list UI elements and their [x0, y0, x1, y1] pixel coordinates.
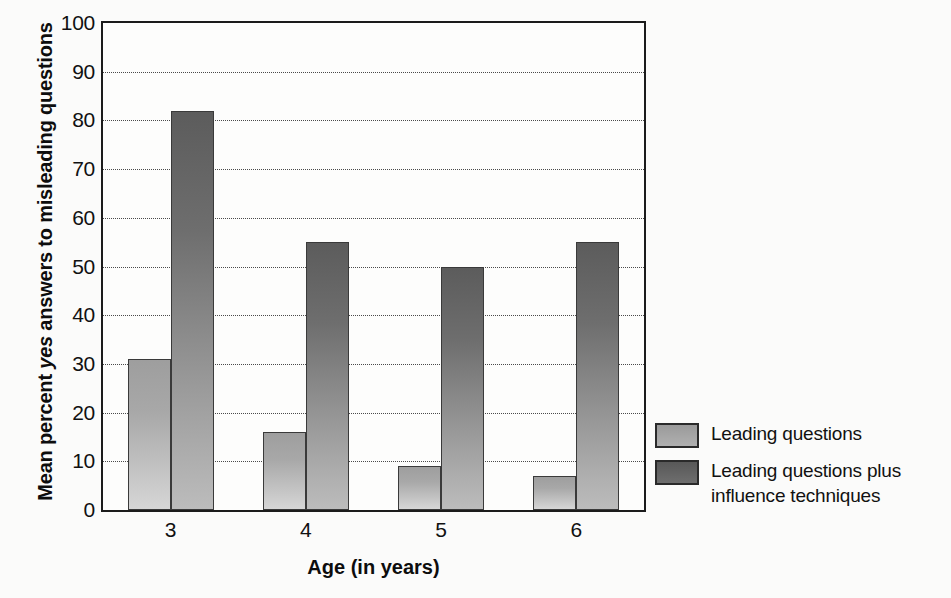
legend-swatch-leading-questions-plus-influence: [655, 460, 699, 485]
bar-3-series1: [128, 359, 171, 510]
y-tick-label-30: 30: [39, 352, 95, 376]
bar-3-series2: [171, 111, 214, 510]
x-tick-label-5: 5: [401, 518, 481, 542]
bar-6-series2: [576, 242, 619, 510]
legend-label-leading-questions-plus-influence: Leading questions plus influence techniq…: [711, 458, 945, 508]
bar-6-series1: [533, 476, 576, 510]
y-tick-label-100: 100: [39, 11, 95, 35]
x-tick-label-3: 3: [131, 518, 211, 542]
y-tick-label-60: 60: [39, 206, 95, 230]
y-tick-label-40: 40: [39, 303, 95, 327]
y-axis-ticks: 0102030405060708090100: [37, 21, 95, 512]
bar-5-series2: [441, 267, 484, 511]
legend-entry: Leading questions: [655, 421, 945, 448]
y-tick-label-70: 70: [39, 157, 95, 181]
y-tick-label-0: 0: [39, 498, 95, 522]
legend: Leading questions Leading questions plus…: [655, 421, 945, 518]
gridline-90: [103, 72, 644, 73]
x-axis-title: Age (in years): [101, 556, 646, 579]
chart-figure: Mean percent yes answers to misleading q…: [0, 0, 951, 598]
x-axis-ticks: 3456: [101, 518, 646, 552]
y-tick-label-90: 90: [39, 60, 95, 84]
x-tick-label-4: 4: [266, 518, 346, 542]
y-tick-label-20: 20: [39, 401, 95, 425]
legend-entry: Leading questions plus influence techniq…: [655, 458, 945, 508]
y-tick-label-50: 50: [39, 255, 95, 279]
y-tick-label-80: 80: [39, 108, 95, 132]
plot-inner: [103, 23, 644, 510]
y-tick-label-10: 10: [39, 449, 95, 473]
bar-5-series1: [398, 466, 441, 510]
x-tick-label-6: 6: [536, 518, 616, 542]
legend-swatch-leading-questions: [655, 423, 699, 448]
plot-area: [101, 21, 646, 512]
bar-4-series1: [263, 432, 306, 510]
legend-label-leading-questions: Leading questions: [711, 421, 862, 446]
bar-4-series2: [306, 242, 349, 510]
